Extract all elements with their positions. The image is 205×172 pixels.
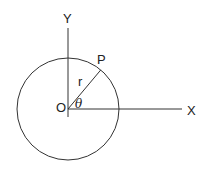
angle-label: θ [75,97,83,111]
y-axis-label: Y [63,11,72,26]
origin-label: O [56,100,66,115]
x-axis-label: X [187,103,196,118]
polar-diagram: Y X O P r θ [0,0,205,172]
radius-label: r [78,74,83,89]
point-label: P [97,52,106,67]
radius-segment [68,70,101,109]
